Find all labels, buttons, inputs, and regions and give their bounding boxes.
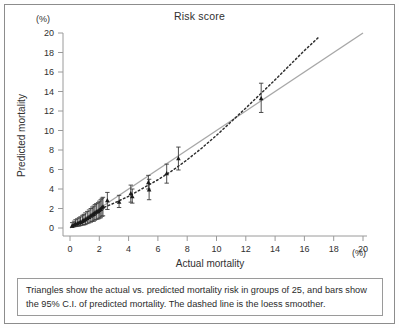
svg-text:10: 10 bbox=[44, 126, 54, 136]
svg-text:2: 2 bbox=[49, 204, 54, 214]
caption-text: Triangles show the actual vs. predicted … bbox=[26, 284, 374, 311]
svg-text:18: 18 bbox=[44, 48, 54, 58]
svg-text:4: 4 bbox=[126, 244, 131, 254]
error-bars bbox=[70, 83, 263, 227]
svg-text:18: 18 bbox=[329, 244, 339, 254]
svg-text:16: 16 bbox=[299, 244, 309, 254]
svg-text:14: 14 bbox=[44, 87, 54, 97]
svg-text:20: 20 bbox=[44, 28, 54, 38]
svg-text:8: 8 bbox=[49, 145, 54, 155]
svg-text:6: 6 bbox=[155, 244, 160, 254]
svg-text:6: 6 bbox=[49, 165, 54, 175]
svg-text:0: 0 bbox=[67, 244, 72, 254]
identity-line bbox=[70, 33, 363, 228]
svg-text:20: 20 bbox=[358, 244, 368, 254]
x-axis-ticks: 02468101214161820 bbox=[67, 236, 368, 254]
svg-text:12: 12 bbox=[241, 244, 251, 254]
figure-container: Risk score (%) (%) Predicted mortality A… bbox=[0, 0, 399, 328]
svg-text:14: 14 bbox=[270, 244, 280, 254]
svg-text:8: 8 bbox=[185, 244, 190, 254]
svg-text:12: 12 bbox=[44, 106, 54, 116]
svg-text:10: 10 bbox=[211, 244, 221, 254]
svg-text:0: 0 bbox=[49, 223, 54, 233]
svg-text:2: 2 bbox=[97, 244, 102, 254]
y-axis-ticks: 02468101214161820 bbox=[44, 28, 63, 233]
loess-smoother-line bbox=[72, 37, 319, 227]
svg-text:4: 4 bbox=[49, 184, 54, 194]
svg-text:16: 16 bbox=[44, 67, 54, 77]
caption-box: Triangles show the actual vs. predicted … bbox=[17, 278, 383, 316]
scatter-plot: 02468101214161820 02468101214161820 bbox=[0, 0, 399, 278]
